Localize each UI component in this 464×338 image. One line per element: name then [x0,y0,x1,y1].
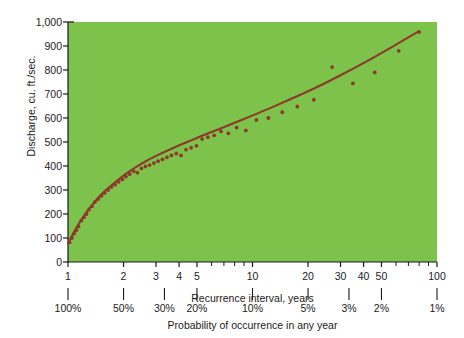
data-point [103,191,107,195]
x-axis-tick-label: 40 [358,270,370,282]
probability-tick-label: 3% [341,302,356,314]
data-point [170,154,174,158]
data-point [219,130,223,134]
data-point [74,228,78,232]
x-axis-tick-label: 100 [428,270,446,282]
data-point [136,171,140,175]
probability-tick-label: 20% [186,302,207,314]
y-axis-tick-label: 700 [16,88,62,100]
data-point [212,133,216,137]
data-point [140,167,144,171]
y-axis-tick-label: 400 [16,160,62,172]
data-point [72,232,76,236]
x-axis-tick-label: 2 [121,270,127,282]
data-point [152,161,156,165]
data-point [195,144,199,148]
probability-tick-label: 100% [55,302,82,314]
data-point [184,148,188,152]
y-axis-tick-label: 900 [16,40,62,52]
x-axis-title-probability: Probability of occurrence in any year [68,319,437,331]
x-axis-tick-label: 1 [65,270,71,282]
data-point [235,126,239,130]
data-point [255,118,259,122]
data-point [295,105,299,109]
data-point [351,82,355,86]
data-point [165,155,169,159]
x-axis-tick-label: 20 [302,270,314,282]
y-axis-tick-label: 500 [16,136,62,148]
y-axis-tick-label: 200 [16,208,62,220]
flood-frequency-chart: Discharge, cu. ft./sec. Recurrence inter… [0,0,464,338]
data-point [106,188,110,192]
data-point [100,194,104,198]
data-point [397,49,401,53]
x-axis-tick-label: 3 [153,270,159,282]
y-axis-tick-label: 300 [16,184,62,196]
probability-tick-label: 1% [429,302,444,314]
probability-tick-label: 30% [154,302,175,314]
data-point [330,65,334,69]
y-axis-tick-label: 600 [16,112,62,124]
data-point [200,137,204,141]
data-point [174,152,178,156]
data-point [244,129,248,133]
data-point [132,169,136,173]
probability-tick-label: 2% [374,302,389,314]
data-point [417,30,421,34]
data-point [77,225,81,229]
data-point [70,236,74,240]
data-point [179,154,183,158]
data-point [144,165,148,169]
data-point [128,172,132,176]
plot-background [68,22,437,262]
data-point [156,159,160,163]
y-axis-tick-label: 0 [16,256,62,268]
y-axis-tick-label: 800 [16,64,62,76]
x-axis-tick-label: 4 [176,270,182,282]
data-point [90,204,94,208]
data-point [79,219,83,223]
x-axis-tick-marks [68,262,437,267]
data-point [312,98,316,102]
x-axis-tick-label: 30 [335,270,347,282]
data-point [267,116,271,120]
chart-canvas [0,0,464,338]
data-point [226,131,230,135]
probability-tick-label: 5% [300,302,315,314]
data-point [110,185,114,189]
probability-tick-label: 10% [242,302,263,314]
data-point [82,215,86,219]
data-point [120,178,124,182]
y-axis-tick-marks [63,22,68,262]
data-point [206,135,210,139]
x-axis-tick-label: 5 [194,270,200,282]
data-point [117,180,121,184]
data-point [68,240,72,244]
data-point [124,175,128,179]
data-point [87,208,91,212]
x-axis-tick-label: 50 [376,270,388,282]
data-point [373,71,377,75]
data-point [148,163,152,167]
y-axis-tick-label: 100 [16,232,62,244]
data-point [85,212,89,216]
probability-tick-label: 50% [113,302,134,314]
x-axis-tick-label: 10 [247,270,259,282]
y-axis-tick-label: 1,000 [16,16,62,28]
data-point [93,200,97,204]
data-point [161,157,165,161]
data-point [189,146,193,150]
data-point [280,110,284,114]
data-point [96,197,100,201]
data-point [113,183,117,187]
